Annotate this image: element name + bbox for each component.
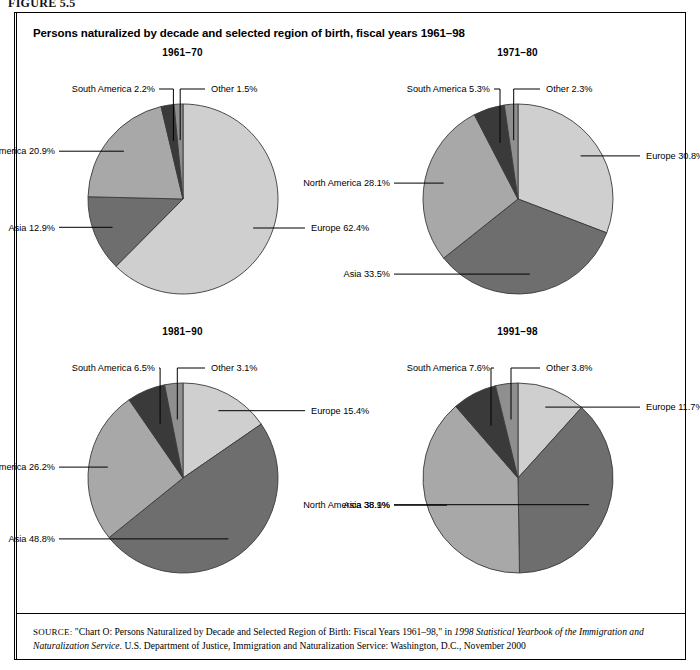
slice-label-south-america: South America 5.3% bbox=[407, 84, 490, 94]
slice-label-north-america: North America 20.9% bbox=[0, 146, 55, 156]
figure-label: FIGURE 5.5 bbox=[8, 0, 76, 11]
slice-label-asia: Asia 33.5% bbox=[344, 269, 390, 279]
slice-label-north-america: North America 26.2% bbox=[0, 462, 55, 472]
source-text-1: "Chart O: Persons Naturalized by Decade … bbox=[72, 626, 454, 637]
pie-chart-1961-70: 1961–70 Europe 62.4%Asia 12.9%North Amer… bbox=[15, 47, 350, 326]
slice-label-south-america: South America 2.2% bbox=[72, 84, 155, 94]
slice-label-asia: Asia 48.8% bbox=[9, 534, 55, 544]
figure-title: Persons naturalized by decade and select… bbox=[33, 27, 465, 39]
source-divider bbox=[16, 613, 685, 614]
pie-svg: Europe 62.4%Asia 12.9%North America 20.9… bbox=[15, 47, 350, 326]
slice-label-north-america: North America 28.1% bbox=[303, 178, 390, 188]
pie-chart-1981-90: 1981–90 Europe 15.4%Asia 48.8%North Amer… bbox=[15, 326, 350, 605]
slice-label-europe: Europe 11.7% bbox=[646, 402, 700, 412]
figure-page: FIGURE 5.5 Persons naturalized by decade… bbox=[0, 0, 700, 670]
slice-label-other: Other 3.1% bbox=[211, 363, 257, 373]
pie-chart-1971-80: 1971–80 Europe 30.8%Asia 33.5%North Amer… bbox=[350, 47, 685, 326]
source-prefix: SOURCE: bbox=[33, 627, 72, 637]
pie-chart-1991-98: 1991–98 Europe 11.7%Asia 38.1%North Amer… bbox=[350, 326, 685, 605]
slice-label-europe: Europe 30.8% bbox=[646, 151, 700, 161]
slice-label-other: Other 1.5% bbox=[211, 84, 257, 94]
slice-label-other: Other 2.3% bbox=[546, 84, 592, 94]
slice-label-other: Other 3.8% bbox=[546, 363, 592, 373]
slice-label-north-america: North America 38.9% bbox=[303, 500, 390, 510]
pie-chart-grid: 1961–70 Europe 62.4%Asia 12.9%North Amer… bbox=[15, 47, 685, 605]
slice-label-asia: Asia 12.9% bbox=[9, 223, 55, 233]
source-note: SOURCE: "Chart O: Persons Naturalized by… bbox=[33, 625, 673, 653]
slice-label-south-america: South America 6.5% bbox=[72, 363, 155, 373]
pie-svg: Europe 30.8%Asia 33.5%North America 28.1… bbox=[350, 47, 685, 326]
pie-svg: Europe 11.7%Asia 38.1%North America 38.9… bbox=[350, 326, 685, 605]
pie-svg: Europe 15.4%Asia 48.8%North America 26.2… bbox=[15, 326, 350, 605]
figure-frame: Persons naturalized by decade and select… bbox=[14, 12, 686, 660]
slice-label-south-america: South America 7.6% bbox=[407, 363, 490, 373]
source-text-2: . U.S. Department of Justice, Immigratio… bbox=[120, 640, 526, 651]
